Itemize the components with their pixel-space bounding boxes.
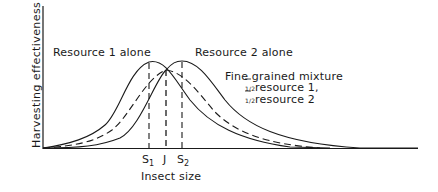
resource-2-label: Resource 2 alone bbox=[195, 47, 293, 59]
tick-s1-sub: 1 bbox=[149, 159, 154, 168]
diagram: Harvesting effectiveness Resource 1 alon… bbox=[0, 0, 438, 192]
tick-s1: S1 bbox=[142, 153, 154, 168]
fraction-half-2: 1/2 bbox=[245, 97, 255, 104]
tick-s2: S2 bbox=[177, 153, 189, 168]
tick-s2-sub: 2 bbox=[184, 159, 189, 168]
mixture-line-2: 1/2resource 2 bbox=[245, 94, 315, 106]
tick-s2-letter: S bbox=[177, 153, 184, 166]
diagram-canvas bbox=[0, 0, 438, 192]
tick-j: J bbox=[163, 153, 166, 166]
fraction-half-1: 1/2 bbox=[245, 85, 255, 92]
x-axis-label: Insect size bbox=[141, 171, 201, 183]
y-axis-label: Harvesting effectiveness bbox=[30, 2, 43, 148]
tick-j-letter: J bbox=[163, 153, 166, 166]
tick-s1-letter: S bbox=[142, 153, 149, 166]
mixture-line-2-text: resource 2 bbox=[255, 93, 315, 106]
resource-1-label: Resource 1 alone bbox=[53, 47, 151, 59]
